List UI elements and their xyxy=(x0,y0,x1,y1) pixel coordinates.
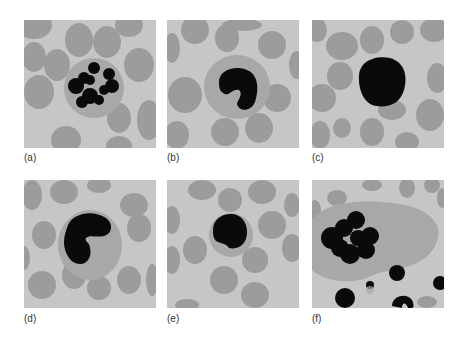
cell-a-illustration xyxy=(24,20,156,148)
panel-b-image xyxy=(167,20,299,148)
panel-f-image xyxy=(312,180,444,308)
panel-c-image xyxy=(312,20,444,148)
cell-e-illustration xyxy=(167,180,299,308)
cell-c-illustration xyxy=(312,20,444,148)
panel-d-image xyxy=(24,180,156,308)
cell-f-illustration xyxy=(312,180,444,308)
cell-b-illustration xyxy=(167,20,299,148)
panel-e-label: (e) xyxy=(167,313,179,324)
panel-a-image xyxy=(24,20,156,148)
panel-d-label: (d) xyxy=(24,313,36,324)
panel-a-label: (a) xyxy=(24,152,36,163)
panel-e-image xyxy=(167,180,299,308)
cell-d-illustration xyxy=(24,180,156,308)
panel-f-label: (f) xyxy=(312,313,321,324)
panel-b-label: (b) xyxy=(167,152,179,163)
panel-c-label: (c) xyxy=(312,152,324,163)
